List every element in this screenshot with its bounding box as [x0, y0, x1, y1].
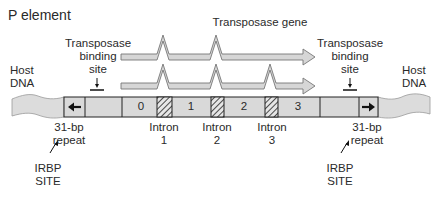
- exon-2-label: 2: [234, 100, 254, 113]
- exon-1-label: 1: [181, 100, 201, 113]
- diagram-title: P element: [8, 7, 71, 23]
- irbp-left-label: IRBP SITE: [30, 162, 66, 188]
- transcript-arrow-bottom: [121, 64, 315, 94]
- binding-site-left-label: Transposase binding site: [62, 37, 134, 76]
- p-element-bar: [64, 97, 378, 117]
- binding-site-left-marker: [90, 78, 104, 90]
- irbp-right-label: IRBP SITE: [322, 162, 358, 188]
- exon-3-label: 3: [288, 100, 308, 113]
- gene-label: Transposase gene: [200, 16, 320, 29]
- intron-3-block: [265, 97, 278, 117]
- host-dna-left-band: [12, 95, 64, 118]
- host-dna-right-label: Host DNA: [402, 64, 426, 90]
- intron-3-label: Intron 3: [252, 121, 292, 147]
- intron-2-label: Intron 2: [197, 121, 237, 147]
- intron-1-block: [157, 97, 172, 117]
- repeat-right-label: 31-bp repeat: [344, 121, 390, 147]
- transcript-arrow-top: [121, 35, 315, 65]
- host-dna-right-band: [378, 94, 430, 118]
- binding-site-right-marker: [343, 78, 357, 90]
- intron-2-block: [211, 97, 224, 117]
- repeat-left-label: 31-bp repeat: [46, 121, 92, 147]
- host-dna-left-label: Host DNA: [10, 64, 34, 90]
- intron-1-label: Intron 1: [144, 121, 184, 147]
- binding-site-right-label: Transposase binding site: [314, 37, 386, 76]
- exon-0-label: 0: [131, 100, 151, 113]
